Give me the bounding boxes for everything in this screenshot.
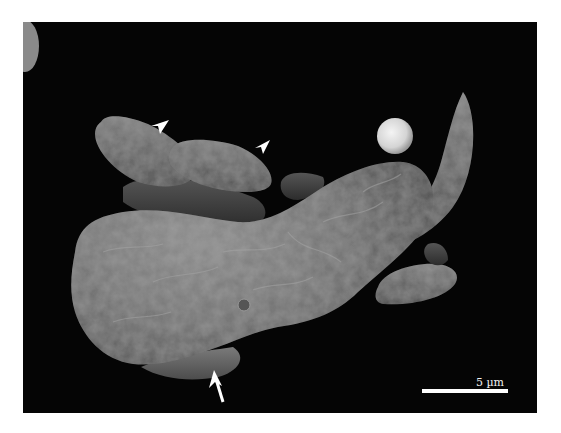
spherical-particle (377, 118, 413, 154)
scale-bar (422, 389, 508, 393)
micrograph-frame (23, 22, 537, 413)
scale-bar-label: 5 µm (460, 376, 520, 389)
crescent-body-4 (376, 264, 457, 305)
crescent-body-5 (424, 243, 448, 265)
cell-surface-pit (238, 299, 250, 311)
edge-round-body (23, 22, 39, 72)
arrowhead-annotation-2 (255, 140, 270, 154)
micrograph-image (23, 22, 537, 413)
